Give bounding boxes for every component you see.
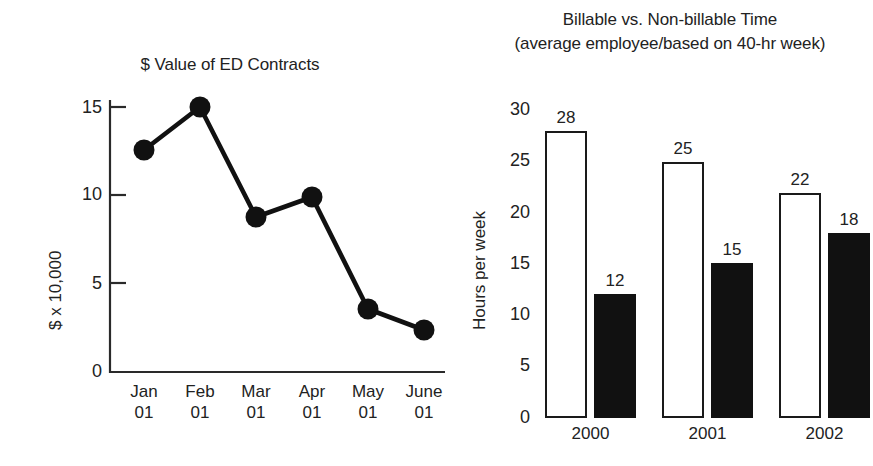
bar-chart-title: Billable vs. Non-billable Time (average … [470, 8, 870, 56]
bar-chart-y-axis-label: Hours per week [470, 211, 490, 330]
bar-chart-ytick-5: 5 [496, 355, 530, 376]
bar-label-2001-billable: 25 [662, 139, 704, 159]
line-chart-xlabel-jan-year: 01 [114, 402, 174, 423]
figure-container: $ Value of ED Contracts $ x 10,000 15 10… [0, 0, 873, 466]
bar-label-2002-non-billable: 18 [828, 210, 870, 230]
line-chart-xlabel-apr-month: Apr [282, 381, 342, 402]
bar-chart-ytick-0: 0 [496, 407, 530, 428]
bar-chart-ytick-20: 20 [496, 202, 530, 223]
line-chart-point-mar [246, 207, 267, 228]
bar-chart-title-line2: (average employee/based on 40-hr week) [470, 32, 870, 56]
line-chart-xlabel-apr: Apr 01 [282, 381, 342, 423]
line-chart-xlabel-feb-month: Feb [170, 381, 230, 402]
bar-2002-billable [779, 193, 821, 418]
bar-2000-billable [545, 131, 587, 418]
bar-chart-ytick-30: 30 [496, 99, 530, 120]
bar-chart-category-2000: 2000 [545, 424, 636, 444]
line-chart-xlabel-mar-year: 01 [226, 402, 286, 423]
line-chart-ed-contracts: $ Value of ED Contracts $ x 10,000 15 10… [0, 0, 460, 466]
bar-2000-non-billable [594, 294, 636, 418]
line-chart-xlabel-jan-month: Jan [114, 381, 174, 402]
bar-chart-title-line1: Billable vs. Non-billable Time [470, 8, 870, 32]
bar-label-2000-non-billable: 12 [594, 271, 636, 291]
line-chart-point-apr [302, 187, 323, 208]
line-chart-xlabel-may-year: 01 [338, 402, 398, 423]
bar-chart-ytick-10: 10 [496, 304, 530, 325]
line-chart-xlabel-june-month: June [394, 381, 454, 402]
line-chart-point-may [358, 299, 379, 320]
line-chart-xlabel-feb: Feb 01 [170, 381, 230, 423]
bar-2001-billable [662, 162, 704, 418]
line-chart-point-feb [190, 97, 211, 118]
bar-label-2002-billable: 22 [779, 170, 821, 190]
line-chart-point-june [414, 320, 435, 341]
line-chart-series-line [144, 107, 424, 330]
line-chart-xlabel-apr-year: 01 [282, 402, 342, 423]
line-chart-xlabel-june-year: 01 [394, 402, 454, 423]
line-chart-xlabel-may: May 01 [338, 381, 398, 423]
line-chart-xlabel-jan: Jan 01 [114, 381, 174, 423]
bar-chart-ytick-15: 15 [496, 253, 530, 274]
bar-chart-category-2002: 2002 [779, 424, 870, 444]
bar-chart-category-2001: 2001 [662, 424, 753, 444]
bar-2001-non-billable [711, 263, 753, 418]
bar-label-2000-billable: 28 [545, 108, 587, 128]
bar-chart-ytick-25: 25 [496, 150, 530, 171]
line-chart-point-jan [134, 140, 155, 161]
line-chart-xlabel-mar: Mar 01 [226, 381, 286, 423]
bar-label-2001-non-billable: 15 [711, 240, 753, 260]
line-chart-xlabel-may-month: May [338, 381, 398, 402]
line-chart-xlabel-june: June 01 [394, 381, 454, 423]
bar-2002-non-billable [828, 233, 870, 418]
line-chart-xlabel-feb-year: 01 [170, 402, 230, 423]
line-chart-xlabel-mar-month: Mar [226, 381, 286, 402]
